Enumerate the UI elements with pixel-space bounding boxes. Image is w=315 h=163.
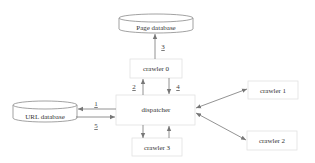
- crawler-2-node: crawler 2: [247, 131, 297, 150]
- page-database-label: Page database: [136, 24, 175, 32]
- url-database-label: URL database: [25, 113, 65, 121]
- edge-label-1: 1: [94, 100, 98, 108]
- url-database-node: URL database: [13, 101, 77, 122]
- url-database-cylinder-top: [13, 101, 77, 109]
- edge-dispatcher-crawler2: [196, 113, 246, 140]
- dispatcher-node: dispatcher: [116, 95, 195, 125]
- dispatcher-label: dispatcher: [142, 106, 171, 114]
- edge-label-5: 5: [94, 122, 98, 130]
- edge-dispatcher-crawler1: [196, 89, 247, 108]
- crawler-3-node: crawler 3: [132, 138, 182, 156]
- crawler-3-label: crawler 3: [144, 144, 171, 152]
- edge-label-4: 4: [176, 83, 180, 91]
- crawler-1-node: crawler 1: [248, 81, 298, 99]
- page-database-node: Page database: [119, 14, 193, 33]
- crawler-1-label: crawler 1: [260, 87, 287, 95]
- page-database-cylinder-top: [119, 14, 193, 22]
- crawler-2-label: crawler 2: [259, 137, 286, 145]
- crawler-architecture-diagram: Page database URL database crawler 0 dis…: [0, 0, 315, 163]
- crawler-0-node: crawler 0: [130, 59, 182, 78]
- edge-label-2: 2: [132, 83, 136, 91]
- edge-label-3: 3: [161, 43, 165, 51]
- crawler-0-label: crawler 0: [143, 65, 170, 73]
